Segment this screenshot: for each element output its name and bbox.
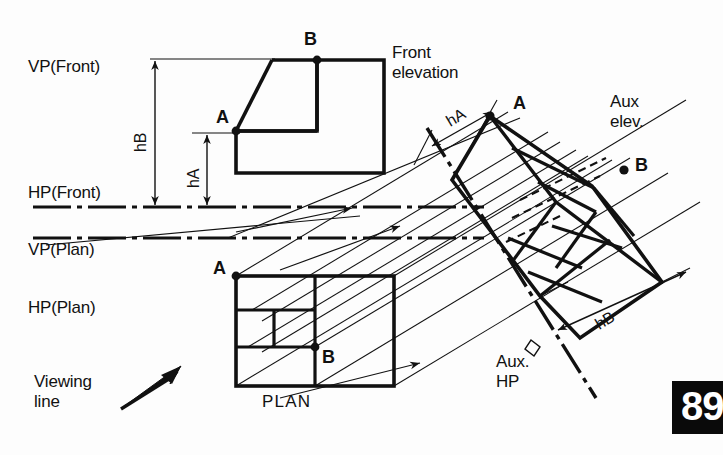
front-point-a-marker	[232, 127, 241, 136]
label-viewing-line2: line	[34, 392, 60, 411]
label-hp-front: HP(Front)	[28, 183, 101, 202]
drawing-page: VP(Front) HP(Front) VP(Plan) HP(Plan) Fr…	[0, 0, 723, 455]
label-plan-title: PLAN	[262, 392, 311, 411]
ray-arrow-mid	[280, 226, 400, 270]
label-front-point-b: B	[304, 29, 317, 49]
label-front-elevation-line2: elevation	[392, 63, 458, 82]
front-elevation-outline	[236, 60, 384, 173]
label-aux-elevation-line1: Aux	[610, 92, 639, 111]
page-number-badge: 89	[672, 381, 723, 434]
label-aux-point-a: A	[513, 93, 526, 113]
projection-ray	[262, 142, 560, 321]
label-viewing-line1: Viewing	[34, 372, 92, 391]
label-hp-plan: HP(Plan)	[28, 298, 95, 317]
page-number-text: 89	[681, 384, 723, 429]
aux-elevation-view	[414, 100, 690, 356]
label-vp-plan: VP(Plan)	[28, 240, 94, 259]
projection-ray	[394, 202, 700, 386]
aux-hidden-edge	[506, 216, 560, 242]
label-aux-hp-line2: HP	[496, 372, 519, 391]
aux-hb-extension-b	[662, 268, 690, 282]
projection-ray	[252, 132, 548, 310]
viewing-line-arrow	[121, 366, 181, 409]
front-point-b-marker	[313, 56, 322, 65]
label-plan-point-a: A	[213, 258, 226, 278]
aux-elevation-step-edge-2	[512, 148, 594, 188]
label-dim-hb-front: hB	[132, 133, 150, 152]
label-front-point-a: A	[216, 107, 229, 127]
projection-ray	[248, 150, 576, 347]
engineering-drawing-canvas	[0, 0, 723, 455]
aux-elevation-step-edge-7	[540, 240, 610, 296]
label-dim-ha-front: hA	[185, 169, 203, 188]
aux-ha-extension-a	[470, 100, 497, 148]
front-elevation-chamfer-edge	[236, 60, 272, 131]
projection-ray	[315, 173, 668, 386]
projection-ray	[236, 160, 612, 386]
label-vp-front: VP(Front)	[28, 57, 100, 76]
label-aux-point-b: B	[635, 155, 648, 175]
label-aux-hp-line1: Aux.	[496, 352, 529, 371]
aux-elevation-step-edge-9	[556, 212, 596, 268]
label-front-elevation-line1: Front	[392, 43, 431, 62]
aux-elevation-step-edge-10	[594, 188, 634, 236]
ray-arrow-upper	[236, 208, 352, 232]
label-aux-elevation-line2: elev.	[610, 112, 644, 131]
aux-hb-dimension-line	[558, 272, 686, 330]
plan-view	[232, 272, 394, 386]
projection-ray	[262, 156, 588, 352]
aux-point-b-marker	[619, 165, 628, 174]
label-plan-point-b: B	[322, 347, 335, 367]
aux-elevation-step-edge-8	[512, 202, 556, 262]
